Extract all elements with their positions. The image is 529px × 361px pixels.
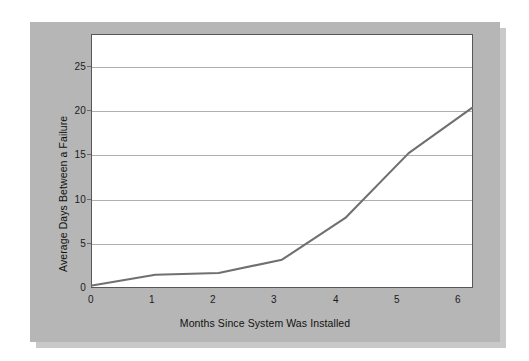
y-tick-label-20: 20 — [60, 105, 86, 116]
plot-inner — [92, 35, 472, 287]
x-tick-label-5: 5 — [387, 294, 407, 305]
y-tick-label-15: 15 — [60, 149, 86, 160]
x-tick-label-1: 1 — [142, 294, 162, 305]
x-tick-label-3: 3 — [264, 294, 284, 305]
chart-panel: Average Days Between a Failure 0 5 10 15… — [30, 22, 500, 342]
data-series-line — [92, 35, 474, 289]
x-tick-label-2: 2 — [203, 294, 223, 305]
y-tick-label-0: 0 — [60, 282, 86, 293]
x-tick-label-6: 6 — [448, 294, 468, 305]
y-tick-label-5: 5 — [60, 238, 86, 249]
x-axis-title: Months Since System Was Installed — [30, 317, 500, 329]
series-polyline — [92, 108, 472, 286]
chart-figure: Average Days Between a Failure 0 5 10 15… — [0, 0, 529, 361]
plot-area — [91, 34, 473, 288]
y-tick-label-25: 25 — [60, 61, 86, 72]
x-tick-label-4: 4 — [326, 294, 346, 305]
x-tick-label-0: 0 — [81, 294, 101, 305]
y-tick-label-10: 10 — [60, 194, 86, 205]
